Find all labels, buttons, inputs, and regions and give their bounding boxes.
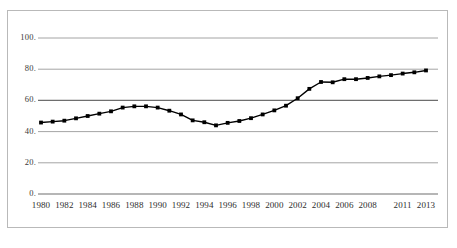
data-point-marker <box>354 77 358 81</box>
y-tick-label-20: 20. <box>6 157 36 167</box>
data-point-marker <box>377 74 381 78</box>
data-point-marker <box>272 108 276 112</box>
data-point-marker <box>226 121 230 125</box>
data-point-marker <box>237 119 241 123</box>
data-point-marker <box>424 69 428 73</box>
x-tick-label-2008: 2008 <box>354 200 382 210</box>
data-point-marker <box>191 118 195 122</box>
data-point-marker <box>74 116 78 120</box>
y-tick-label-40: 40. <box>6 126 36 136</box>
y-tick-label-0: 0. <box>6 188 36 198</box>
data-point-marker <box>97 112 101 116</box>
gridlines-group <box>38 38 438 194</box>
y-tick-label-60: 60. <box>6 94 36 104</box>
data-point-marker <box>307 87 311 91</box>
data-point-marker <box>179 113 183 117</box>
data-point-marker <box>62 119 66 123</box>
chart-figure: 100.80.60.40.20.0. 198019821984198619881… <box>0 0 457 248</box>
data-point-marker <box>39 121 43 125</box>
data-point-marker <box>214 123 218 127</box>
data-point-marker <box>331 80 335 84</box>
data-point-marker <box>132 104 136 108</box>
data-point-marker <box>296 96 300 100</box>
x-tick-label-2013: 2013 <box>412 200 440 210</box>
data-point-marker <box>366 76 370 80</box>
y-tick-label-80: 80. <box>6 63 36 73</box>
data-point-marker <box>109 109 113 113</box>
data-point-marker <box>342 77 346 81</box>
data-point-marker <box>249 116 253 120</box>
data-point-marker <box>86 114 90 118</box>
data-point-marker <box>261 113 265 117</box>
data-point-marker <box>284 104 288 108</box>
data-point-marker <box>319 80 323 84</box>
data-point-marker <box>202 120 206 124</box>
data-point-marker <box>121 106 125 110</box>
line-chart-plot <box>0 0 457 248</box>
data-point-marker <box>51 120 55 124</box>
data-point-marker <box>144 104 148 108</box>
data-point-marker <box>389 73 393 77</box>
data-point-marker <box>401 72 405 76</box>
data-point-marker <box>156 106 160 110</box>
data-point-marker <box>412 70 416 74</box>
y-tick-label-100: 100. <box>6 32 36 42</box>
data-point-marker <box>167 109 171 113</box>
